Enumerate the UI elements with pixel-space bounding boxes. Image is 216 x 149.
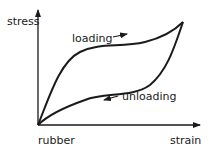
loading-arrow-icon [113, 34, 127, 37]
stress-strain-diagram: stress strain rubber loading unloading [0, 0, 216, 149]
unloading-arrow-icon [104, 96, 118, 100]
origin-label: rubber [38, 134, 75, 147]
x-axis-label: strain [170, 134, 201, 147]
loading-label: loading [72, 32, 113, 45]
unloading-label: unloading [122, 90, 176, 103]
y-axis-label: stress [7, 15, 40, 28]
